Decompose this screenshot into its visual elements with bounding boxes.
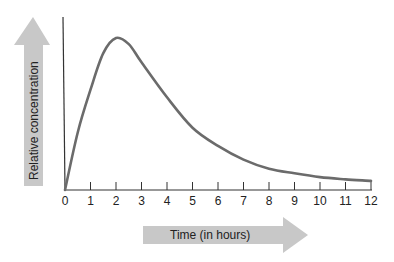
concentration-curve	[65, 38, 371, 190]
x-axis-label: Time (in hours)	[170, 228, 250, 242]
x-tick-labels: 0123456789101112	[62, 194, 378, 208]
y-axis-label: Relative concentration	[27, 61, 41, 180]
x-tick-label: 3	[138, 194, 145, 208]
y-axis-line	[63, 17, 65, 190]
x-tick-label: 8	[266, 194, 273, 208]
x-tick-label: 10	[313, 194, 327, 208]
x-tick-label: 2	[113, 194, 120, 208]
concentration-time-chart: Relative concentration Time (in hours) 0…	[0, 0, 394, 262]
x-ticks	[91, 182, 372, 190]
x-tick-label: 9	[291, 194, 298, 208]
x-tick-label: 0	[62, 194, 69, 208]
x-tick-label: 6	[215, 194, 222, 208]
x-tick-label: 5	[189, 194, 196, 208]
x-tick-label: 1	[87, 194, 94, 208]
x-tick-label: 12	[364, 194, 378, 208]
x-tick-label: 7	[240, 194, 247, 208]
x-tick-label: 11	[339, 194, 352, 208]
x-tick-label: 4	[164, 194, 171, 208]
